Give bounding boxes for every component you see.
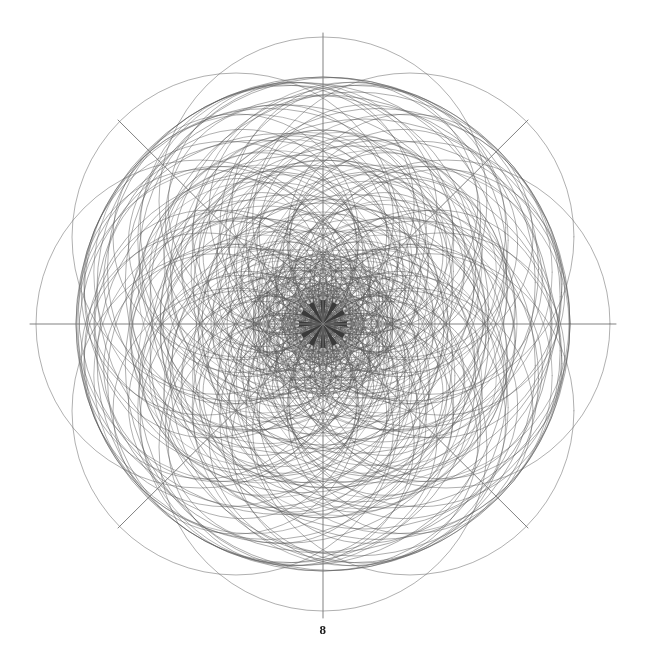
rosette-diagram-canvas xyxy=(0,0,646,670)
geometric-figure: 8 xyxy=(0,0,646,670)
figure-caption: 8 xyxy=(0,622,646,638)
